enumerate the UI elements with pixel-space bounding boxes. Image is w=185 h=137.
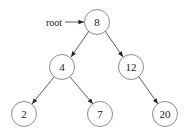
- tree-node-8: 8: [85, 10, 110, 35]
- node-label: 12: [126, 61, 137, 73]
- edge-4-7: [70, 77, 93, 104]
- node-label: 8: [94, 16, 100, 28]
- edge-8-12: [105, 31, 123, 57]
- tree-diagram: root 8 4 12 2 7: [0, 0, 185, 137]
- edge-4-2: [32, 77, 54, 104]
- node-label: 20: [160, 108, 172, 120]
- edge-8-4: [71, 31, 89, 57]
- node-label: 7: [97, 108, 103, 120]
- tree-node-4: 4: [50, 55, 75, 80]
- tree-node-7: 7: [88, 102, 113, 127]
- tree-node-2: 2: [12, 102, 37, 127]
- tree-node-12: 12: [119, 55, 144, 80]
- tree-svg: root 8 4 12 2 7: [0, 0, 185, 137]
- tree-node-20: 20: [153, 102, 178, 127]
- root-pointer-label: root: [46, 17, 62, 28]
- edge-12-20: [139, 77, 158, 104]
- node-label: 2: [21, 108, 27, 120]
- node-label: 4: [59, 61, 65, 73]
- root-pointer: root: [46, 17, 84, 28]
